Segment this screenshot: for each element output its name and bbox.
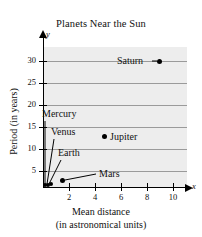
venus-label: Venus [51,126,75,137]
x-axis-letter: x [192,181,196,191]
jupiter-label: Jupiter [110,131,137,142]
chart-figure: Planets Near the Sun y x 30 25 20 15 10 … [0,0,202,237]
x-axis-title: Mean distance (in astronomical units) [0,205,202,231]
x-tick-label-8: 8 [137,193,157,202]
datapoint-mars[interactable] [60,178,65,183]
x-tick-label-6: 6 [111,193,131,202]
gridline-25 [43,83,187,84]
y-tick-30 [39,61,47,62]
chart-title: Planets Near the Sun [0,18,202,29]
earth-label: Earth [58,147,80,158]
x-tick-8 [147,183,148,191]
y-axis-title: Period (in years) [8,57,19,187]
x-axis-line [43,187,186,188]
saturn-label: Saturn [117,55,143,66]
x-tick-2 [69,183,70,191]
y-tick-20 [39,105,47,106]
y-tick-25 [39,83,47,84]
x-tick-label-2: 2 [59,193,79,202]
x-axis-title-line1: Mean distance [0,205,202,218]
datapoint-jupiter[interactable] [102,134,107,139]
x-axis-title-line2: (in astronomical units) [0,218,202,231]
gridline-20 [43,105,187,106]
mercury-label: Mercury [42,108,76,119]
datapoint-saturn[interactable] [157,59,162,64]
x-tick-label-10: 10 [163,193,183,202]
y-tick-5 [39,171,47,172]
y-tick-10 [39,149,47,150]
y-axis-letter: y [46,29,50,39]
x-tick-4 [95,183,96,191]
x-tick-label-4: 4 [85,193,105,202]
y-tick-15 [39,127,47,128]
mars-label: Mars [99,168,120,179]
gridline-30 [43,61,187,62]
x-tick-6 [121,183,122,191]
datapoint-earth[interactable] [49,182,53,186]
x-tick-10 [173,183,174,191]
